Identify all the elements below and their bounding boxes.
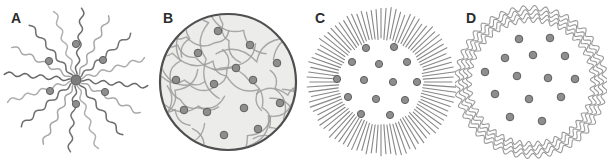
brush-spike xyxy=(339,23,356,48)
brush-spike xyxy=(309,62,339,70)
nanoparticle xyxy=(506,113,514,121)
nanoparticle xyxy=(557,93,565,101)
brush-spike xyxy=(335,115,355,139)
brush-spike xyxy=(371,125,375,153)
brush-spike xyxy=(423,62,451,70)
polymer-arm xyxy=(68,86,76,152)
brush-spike xyxy=(423,77,453,79)
nanoparticle xyxy=(276,99,284,107)
nanoparticle xyxy=(529,51,537,59)
nanoparticle xyxy=(72,100,79,107)
nanoparticle xyxy=(386,111,393,118)
brush-spike xyxy=(413,112,435,133)
nanoparticle xyxy=(172,76,180,84)
panel-d: D xyxy=(455,0,607,161)
polymer-arm xyxy=(82,58,145,79)
nanoparticle xyxy=(357,110,364,117)
brush-spike xyxy=(384,125,386,154)
vesicle-ring xyxy=(455,5,607,158)
nanoparticle xyxy=(220,131,228,139)
brush-spike xyxy=(405,116,423,142)
brush-spike xyxy=(329,111,349,130)
brush-spike xyxy=(331,28,351,50)
brush-spike xyxy=(371,11,375,39)
panel-d-graphic xyxy=(455,0,607,161)
brush-spike xyxy=(376,125,378,152)
nanoparticle xyxy=(525,95,533,103)
nanoparticle xyxy=(401,96,408,103)
nanoparticle xyxy=(546,34,554,42)
nanoparticle xyxy=(180,106,188,114)
nanoparticle xyxy=(372,95,379,102)
polymer-arm xyxy=(8,81,71,102)
ring-group xyxy=(455,5,607,158)
nanoparticle xyxy=(249,76,257,84)
brush-spike xyxy=(320,107,345,125)
particle-group xyxy=(333,43,420,118)
brush-spike xyxy=(311,91,338,97)
nanoparticle xyxy=(273,59,281,67)
brush-spike xyxy=(361,11,369,39)
nanoparticle xyxy=(254,125,262,133)
polymer-arm xyxy=(54,12,75,75)
nanoparticle xyxy=(46,87,53,94)
polymer-arm xyxy=(4,72,70,80)
spike-group xyxy=(307,8,456,156)
brush-spike xyxy=(384,8,386,39)
star-core xyxy=(71,75,81,85)
brush-spike xyxy=(376,10,378,40)
nanoparticle xyxy=(491,90,499,98)
panel-a-label: A xyxy=(11,11,21,25)
panel-b-label: B xyxy=(163,11,173,25)
nanoparticle xyxy=(403,58,410,65)
nanoparticle xyxy=(214,27,222,35)
nanoparticle xyxy=(501,54,509,62)
nanoparticle xyxy=(375,60,382,67)
nanoparticle xyxy=(389,78,396,85)
nanoparticle xyxy=(101,88,108,95)
nanoparticle xyxy=(240,104,248,112)
brush-spike xyxy=(423,85,455,87)
panel-c-label: C xyxy=(315,11,325,25)
nanoparticle xyxy=(232,64,240,72)
nanoparticle xyxy=(413,78,420,85)
brush-spike xyxy=(324,36,348,55)
nanoparticle xyxy=(544,74,552,82)
nanoparticle xyxy=(45,57,52,64)
nanoparticle xyxy=(348,58,355,65)
polymer-arm xyxy=(82,79,148,87)
nanoparticle xyxy=(210,80,218,88)
particle-group xyxy=(481,34,579,125)
nanoparticle xyxy=(99,56,106,63)
nanoparticle xyxy=(561,52,569,60)
nanoparticle xyxy=(571,75,579,83)
nanoparticle xyxy=(246,41,254,49)
panel-c: C xyxy=(304,0,456,161)
brush-spike xyxy=(411,27,433,50)
brush-spike xyxy=(335,26,354,50)
brush-spike xyxy=(362,123,370,150)
panel-a: A xyxy=(0,0,152,161)
brush-spike xyxy=(393,12,401,40)
brush-spike xyxy=(410,113,430,135)
nanoparticle xyxy=(390,43,397,50)
panel-d-label: D xyxy=(466,11,476,25)
nanoparticle xyxy=(513,72,521,80)
nanoparticle xyxy=(344,93,351,100)
panel-b-graphic xyxy=(152,0,304,161)
nanoparticle xyxy=(203,108,211,116)
panel-a-graphic xyxy=(0,0,152,161)
brush-spike xyxy=(387,125,391,153)
nanoparticle xyxy=(515,35,523,43)
brush-spike xyxy=(413,32,435,52)
nanoparticle xyxy=(333,75,340,82)
brush-spike xyxy=(328,33,349,53)
brush-spike xyxy=(307,85,339,87)
panel-b: B xyxy=(152,0,304,161)
nanoparticle xyxy=(360,76,367,83)
nanoparticle xyxy=(72,40,79,47)
brush-spike xyxy=(415,35,439,54)
brush-spike xyxy=(324,109,348,129)
vesicle-ring xyxy=(462,14,599,151)
nanoparticle xyxy=(481,68,489,76)
